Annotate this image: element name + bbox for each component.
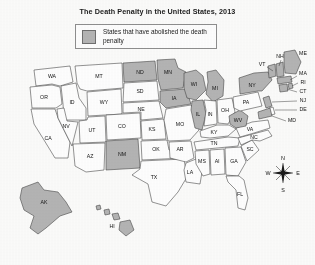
compass-south-label: S: [281, 187, 285, 193]
label-CT: CT: [300, 88, 308, 94]
label-IL: IL: [196, 111, 200, 117]
label-UT: UT: [89, 127, 97, 133]
leader-MD: [272, 116, 286, 121]
hawaii-island-3[interactable]: [112, 213, 120, 220]
map-figure: The Death Penalty in the United States, …: [0, 0, 315, 265]
label-MD: MD: [288, 117, 296, 123]
hawaii-island-1[interactable]: [96, 205, 101, 210]
hawaii-island-2[interactable]: [104, 209, 110, 215]
label-MI: MI: [212, 85, 218, 91]
state-VT[interactable]: [268, 64, 276, 78]
state-MA[interactable]: [277, 76, 292, 84]
label-OH: OH: [221, 107, 229, 113]
leader-RI: [292, 83, 298, 86]
compass-west-label: W: [265, 170, 271, 176]
label-OK: OK: [152, 146, 160, 152]
label-HI: HI: [109, 223, 114, 229]
leader-NJ: [272, 101, 297, 102]
label-NJ: NJ: [300, 97, 307, 103]
label-CA: CA: [44, 135, 52, 141]
state-KY[interactable]: [200, 125, 236, 138]
label-FL: FL: [237, 191, 243, 197]
label-MA: MA: [299, 70, 307, 76]
hawaii-island-4[interactable]: [119, 220, 134, 236]
label-NE: NE: [137, 106, 145, 112]
label-ME: ME: [299, 50, 307, 56]
label-TN: TN: [211, 140, 218, 146]
label-NH: NH: [276, 53, 284, 59]
legend-swatch-abolished: [82, 30, 96, 44]
legend-label-abolished: States that have abolished the death pen…: [103, 28, 210, 45]
state-NH[interactable]: [276, 62, 284, 77]
state-TX[interactable]: [132, 159, 187, 206]
label-AL: Al: [215, 158, 220, 164]
label-PA: PA: [243, 99, 250, 105]
label-NY: NY: [248, 82, 256, 88]
label-MN: MN: [164, 69, 172, 75]
label-NC: NC: [250, 134, 258, 140]
label-WV: WV: [234, 117, 243, 123]
label-OR: OR: [40, 94, 48, 100]
us-choropleth-map: WA OR CA ID NV MT WY UT AZ CO NM ND SD N…: [0, 46, 315, 265]
label-KY: KY: [211, 129, 218, 135]
label-GA: GA: [230, 158, 238, 164]
compass-rose: N E S W: [265, 155, 300, 193]
label-AR: AR: [176, 146, 183, 152]
label-NV: NV: [62, 123, 70, 129]
label-ND: ND: [136, 69, 144, 75]
label-WY: WY: [100, 99, 109, 105]
label-WI: WI: [191, 81, 197, 87]
label-MO: MO: [176, 121, 184, 127]
label-IA: IA: [172, 95, 177, 101]
label-MT: MT: [95, 73, 103, 79]
state-MD[interactable]: [258, 108, 272, 119]
chart-title: The Death Penalty in the United States, …: [0, 7, 315, 16]
label-NM: NM: [118, 151, 126, 157]
label-SC: SC: [246, 146, 253, 152]
label-TX: TX: [151, 174, 158, 180]
label-RI: RI: [300, 79, 305, 85]
state-CT[interactable]: [279, 84, 288, 92]
leader-CT: [287, 89, 297, 92]
label-SD: SD: [136, 88, 143, 94]
label-LA: LA: [187, 169, 194, 175]
label-WA: WA: [48, 73, 57, 79]
compass-north-label: N: [281, 155, 285, 161]
label-VA: VA: [247, 126, 254, 132]
label-IN: IN: [207, 111, 212, 117]
label-DE: DE: [299, 106, 307, 112]
state-NJ[interactable]: [263, 96, 272, 108]
compass-east-label: E: [296, 170, 300, 176]
label-ID: ID: [69, 99, 74, 105]
label-VT: VT: [259, 61, 266, 67]
label-KS: KS: [149, 126, 156, 132]
label-AZ: AZ: [87, 153, 94, 159]
label-MS: MS: [198, 158, 206, 164]
label-CO: CO: [118, 123, 126, 129]
state-AK[interactable]: [20, 182, 72, 234]
label-AK: AK: [41, 199, 48, 205]
